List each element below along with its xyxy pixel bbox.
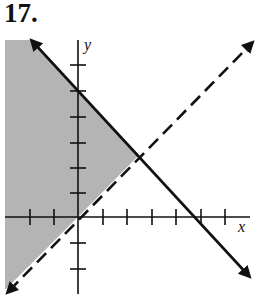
graph <box>0 0 268 301</box>
shaded-region <box>5 40 139 290</box>
y-axis-label: y <box>84 36 91 54</box>
x-axis-label: x <box>238 218 245 236</box>
